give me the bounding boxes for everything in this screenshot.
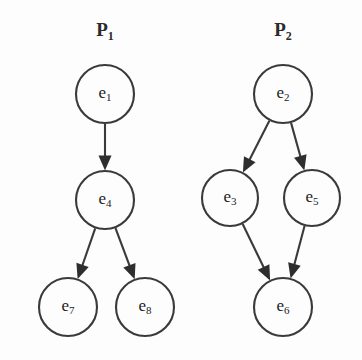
- arrowhead-e4-to-e8: [123, 263, 135, 279]
- edge-e2-to-e5: [291, 123, 301, 159]
- edge-e3-to-e6: [243, 224, 265, 270]
- arrowhead-e1-to-e4: [99, 156, 112, 171]
- graph-title-P2: P2: [274, 19, 292, 42]
- edge-e5-to-e6: [294, 226, 305, 267]
- node-e1: e1: [76, 65, 134, 123]
- edge-e2-to-e3: [248, 121, 269, 162]
- arrowhead-e4-to-e7: [76, 263, 88, 279]
- arrowhead-e2-to-e5: [294, 154, 307, 170]
- graph-figure: P1e1e4e7e8P2e2e3e5e6: [0, 0, 362, 360]
- graph-canvas: P1e1e4e7e8P2e2e3e5e6: [0, 0, 362, 360]
- node-e7: e7: [39, 278, 97, 336]
- node-e6: e6: [254, 278, 312, 336]
- arrowhead-e5-to-e6: [288, 262, 301, 278]
- node-e8: e8: [116, 278, 174, 336]
- node-e2: e2: [254, 65, 312, 123]
- node-e5: e5: [284, 170, 340, 226]
- graph-P2: P2e2e3e5e6: [202, 19, 340, 336]
- graph-P1: P1e1e4e7e8: [39, 19, 174, 336]
- edge-e4-to-e7: [82, 228, 96, 267]
- node-e4: e4: [76, 171, 134, 229]
- graph-title-P1: P1: [96, 19, 114, 42]
- node-e3: e3: [202, 170, 258, 226]
- edge-e4-to-e8: [116, 228, 131, 268]
